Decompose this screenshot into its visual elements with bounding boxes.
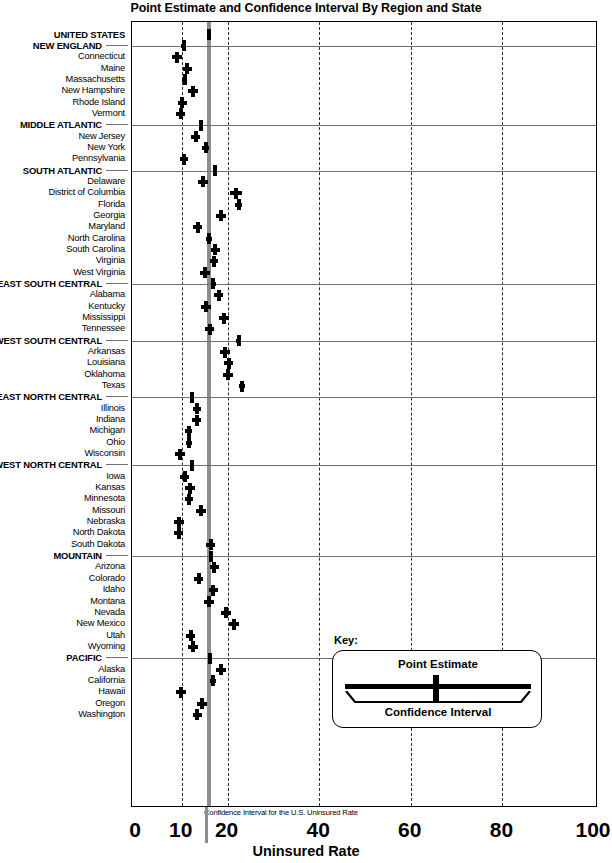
row-label-south-dakota: South Dakota bbox=[71, 539, 125, 549]
key-brace-icon bbox=[345, 691, 531, 704]
axis-tick-80: 80 bbox=[490, 818, 513, 842]
row-label-delaware: Delaware bbox=[87, 176, 125, 186]
us-confidence-band bbox=[207, 22, 211, 806]
axis-tick-0: 0 bbox=[129, 818, 141, 842]
row-label-alaska: Alaska bbox=[98, 664, 125, 674]
row-label-hawaii: Hawaii bbox=[98, 686, 125, 696]
row-label-south-carolina: South Carolina bbox=[66, 244, 125, 254]
row-label-texas: Texas bbox=[102, 380, 125, 390]
point-estimate-tick bbox=[240, 381, 244, 392]
region-separator bbox=[132, 46, 596, 47]
row-label-nebraska: Nebraska bbox=[87, 516, 125, 526]
row-label-mountain: MOUNTAIN bbox=[53, 550, 102, 561]
row-label-maine: Maine bbox=[101, 63, 125, 73]
region-leader-line bbox=[106, 464, 128, 465]
point-estimate-tick bbox=[211, 675, 215, 686]
region-leader-line bbox=[106, 283, 128, 284]
gridline-40 bbox=[319, 22, 320, 806]
point-estimate-tick bbox=[226, 369, 230, 380]
row-label-missouri: Missouri bbox=[92, 505, 125, 515]
point-estimate-tick bbox=[213, 165, 217, 176]
row-label-vermont: Vermont bbox=[92, 108, 125, 118]
row-label-west-north-central: WEST NORTH CENTRAL bbox=[0, 459, 102, 470]
row-label-alabama: Alabama bbox=[90, 289, 125, 299]
point-estimate-tick bbox=[199, 505, 203, 516]
region-separator bbox=[132, 341, 596, 342]
point-estimate-tick bbox=[237, 335, 241, 346]
point-estimate-tick bbox=[224, 607, 228, 618]
axis-tick-10: 10 bbox=[169, 818, 192, 842]
point-estimate-tick bbox=[177, 528, 181, 539]
row-label-new-jersey: New Jersey bbox=[78, 131, 125, 141]
row-label-oregon: Oregon bbox=[95, 698, 125, 708]
point-estimate-tick bbox=[211, 278, 215, 289]
row-label-florida: Florida bbox=[98, 199, 125, 209]
point-estimate-tick bbox=[187, 494, 191, 505]
point-estimate-tick bbox=[189, 630, 193, 641]
row-label-idaho: Idaho bbox=[103, 584, 125, 594]
region-leader-line bbox=[106, 170, 128, 171]
row-label-north-carolina: North Carolina bbox=[68, 233, 125, 243]
point-estimate-tick bbox=[234, 188, 238, 199]
row-label-michigan: Michigan bbox=[89, 425, 125, 435]
point-estimate-tick bbox=[182, 40, 186, 51]
point-estimate-tick bbox=[204, 142, 208, 153]
row-label-ohio: Ohio bbox=[106, 437, 125, 447]
row-label-utah: Utah bbox=[106, 630, 125, 640]
point-estimate-tick bbox=[187, 426, 191, 437]
x-axis-ticks: 01020406080100 bbox=[0, 818, 612, 846]
row-label-wisconsin: Wisconsin bbox=[84, 448, 125, 458]
row-label-maryland: Maryland bbox=[88, 221, 125, 231]
point-estimate-tick bbox=[197, 573, 201, 584]
point-estimate-tick bbox=[237, 199, 241, 210]
x-axis-title: Uninsured Rate bbox=[0, 843, 612, 859]
key-heading: Key: bbox=[334, 634, 358, 646]
row-label-pennsylvania: Pennsylvania bbox=[72, 153, 125, 163]
row-label-rhode-island: Rhode Island bbox=[73, 97, 125, 107]
us-ci-annotation: Confidence Interval for the U.S. Uninsur… bbox=[204, 808, 358, 817]
axis-tick-20: 20 bbox=[215, 818, 238, 842]
region-leader-line bbox=[106, 340, 128, 341]
axis-tick-40: 40 bbox=[307, 818, 330, 842]
point-estimate-tick bbox=[183, 471, 187, 482]
region-leader-line bbox=[106, 124, 128, 125]
point-estimate-tick bbox=[232, 619, 236, 630]
point-estimate-tick bbox=[191, 86, 195, 97]
point-estimate-tick bbox=[194, 131, 198, 142]
row-label-colorado: Colorado bbox=[89, 573, 125, 583]
point-estimate-tick bbox=[223, 347, 227, 358]
row-label-north-dakota: North Dakota bbox=[73, 527, 125, 537]
row-label-new-hampshire: New Hampshire bbox=[61, 85, 125, 95]
point-estimate-tick bbox=[175, 52, 179, 63]
row-label-west-south-central: WEST SOUTH CENTRAL bbox=[0, 334, 102, 345]
row-label-new-york: New York bbox=[87, 142, 125, 152]
row-label-east-south-central: EAST SOUTH CENTRAL bbox=[0, 277, 102, 288]
region-leader-line bbox=[106, 555, 128, 556]
point-estimate-tick bbox=[196, 222, 200, 233]
axis-tick-100: 100 bbox=[575, 818, 610, 842]
point-estimate-tick bbox=[209, 539, 213, 550]
region-leader-line bbox=[106, 45, 128, 46]
row-label-louisiana: Louisiana bbox=[87, 357, 125, 367]
point-estimate-tick bbox=[180, 97, 184, 108]
key-confidence-interval-label: Confidence Interval bbox=[333, 706, 543, 718]
point-estimate-tick bbox=[199, 120, 203, 131]
region-leader-line bbox=[106, 396, 128, 397]
row-label-south-atlantic: SOUTH ATLANTIC bbox=[23, 164, 102, 175]
point-estimate-tick bbox=[200, 698, 204, 709]
row-label-virginia: Virginia bbox=[96, 255, 125, 265]
row-label-arkansas: Arkansas bbox=[88, 346, 125, 356]
row-label-united-states: UNITED STATES bbox=[54, 28, 125, 39]
row-label-west-virginia: West Virginia bbox=[73, 267, 125, 277]
axis-tick-60: 60 bbox=[398, 818, 421, 842]
point-estimate-tick bbox=[191, 641, 195, 652]
key-box: Point Estimate Confidence Interval bbox=[332, 650, 542, 728]
point-estimate-tick bbox=[222, 313, 226, 324]
gridline-20 bbox=[228, 22, 229, 806]
row-label-new-england: NEW ENGLAND bbox=[33, 39, 102, 50]
point-estimate-tick bbox=[212, 256, 216, 267]
point-estimate-tick bbox=[201, 176, 205, 187]
region-separator bbox=[132, 284, 596, 285]
point-estimate-tick bbox=[209, 551, 213, 562]
point-estimate-tick bbox=[207, 233, 211, 244]
